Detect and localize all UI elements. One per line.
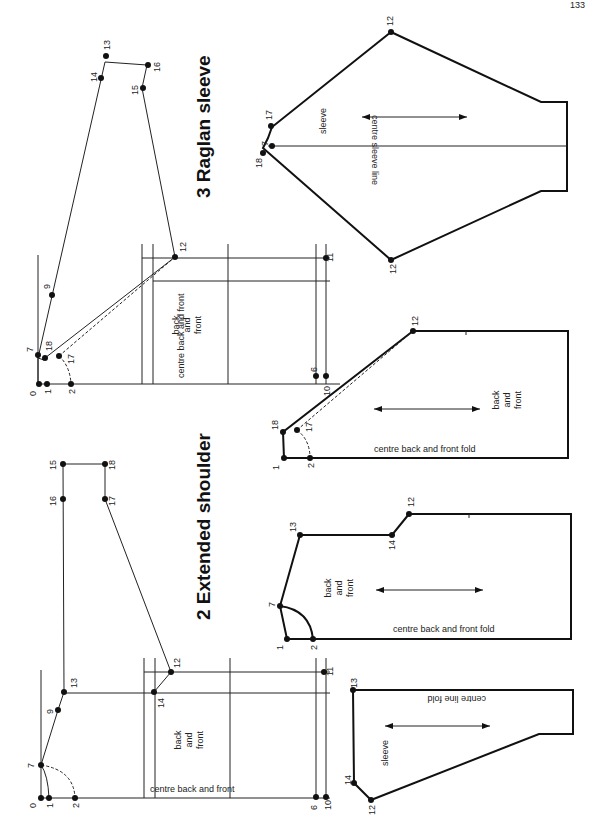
svg-text:18: 18 — [254, 158, 264, 168]
svg-text:2: 2 — [309, 645, 319, 650]
svg-text:front: front — [345, 578, 355, 597]
extended-sleeve-piece: centre line fold sleeve 13 14 12 — [343, 678, 573, 815]
svg-text:16: 16 — [152, 62, 162, 72]
svg-text:1: 1 — [43, 389, 53, 394]
svg-text:12: 12 — [367, 805, 377, 815]
svg-text:17: 17 — [304, 422, 314, 432]
svg-text:and: and — [182, 317, 192, 332]
svg-text:12: 12 — [410, 316, 420, 326]
svg-text:sleeve: sleeve — [380, 740, 390, 766]
svg-text:14: 14 — [89, 72, 99, 82]
svg-text:back: back — [171, 315, 181, 335]
svg-text:1: 1 — [271, 465, 281, 470]
svg-text:11: 11 — [325, 667, 335, 676]
svg-text:18: 18 — [107, 460, 117, 470]
svg-text:12: 12 — [178, 242, 188, 252]
raglan-title: 3 Raglan sleeve — [193, 55, 214, 198]
svg-text:1: 1 — [275, 645, 285, 650]
centre-label-extended: centre back and front — [150, 784, 235, 794]
svg-text:10: 10 — [323, 800, 333, 810]
svg-text:12: 12 — [406, 497, 416, 507]
svg-text:sleeve: sleeve — [318, 108, 328, 134]
svg-text:front: front — [193, 315, 203, 334]
svg-text:15: 15 — [48, 460, 58, 470]
raglan-draft: centre back and front back and front 0 1… — [25, 40, 340, 396]
svg-text:back: back — [323, 578, 333, 598]
svg-text:back: back — [173, 730, 183, 750]
svg-text:13: 13 — [288, 522, 298, 532]
svg-text:0: 0 — [28, 803, 38, 808]
svg-text:16: 16 — [48, 496, 58, 506]
extended-draft: centre back and front back and front 0 1… — [26, 460, 335, 810]
svg-text:7: 7 — [267, 602, 277, 607]
svg-text:9: 9 — [42, 284, 52, 289]
svg-text:7: 7 — [26, 763, 36, 768]
raglan-bodice-piece: centre back and front fold back and fron… — [270, 316, 568, 470]
extended-bodice-piece: centre back and front fold back and fron… — [267, 497, 571, 650]
svg-text:2: 2 — [71, 803, 81, 808]
svg-text:18: 18 — [270, 420, 280, 430]
raglan-sleeve-piece: sleeve centre sleeve line 7 17 18 12 12 — [254, 16, 567, 274]
pattern-page: 133 centre back and front — [0, 0, 601, 835]
svg-text:17: 17 — [107, 496, 117, 506]
svg-text:15: 15 — [130, 85, 140, 95]
svg-text:2: 2 — [67, 389, 77, 394]
svg-text:13: 13 — [69, 678, 79, 688]
svg-text:13: 13 — [102, 40, 112, 50]
svg-text:9: 9 — [45, 709, 55, 714]
svg-text:14: 14 — [156, 698, 166, 708]
svg-text:and: and — [334, 580, 344, 595]
svg-text:centre line fold: centre line fold — [427, 694, 486, 704]
svg-text:14: 14 — [387, 540, 397, 550]
svg-text:and: and — [184, 732, 194, 747]
svg-text:6: 6 — [309, 367, 319, 372]
svg-text:0: 0 — [28, 391, 38, 396]
svg-text:11: 11 — [325, 253, 335, 262]
svg-text:13: 13 — [349, 678, 359, 688]
svg-text:centre back and front fold: centre back and front fold — [393, 624, 495, 634]
svg-text:14: 14 — [343, 775, 353, 785]
page-number: 133 — [570, 0, 585, 10]
svg-text:6: 6 — [309, 805, 319, 810]
svg-text:12: 12 — [388, 264, 398, 274]
svg-text:7: 7 — [25, 347, 35, 352]
svg-text:front: front — [513, 390, 523, 409]
svg-text:17: 17 — [66, 354, 76, 364]
svg-text:12: 12 — [385, 16, 395, 26]
svg-text:7: 7 — [260, 141, 270, 146]
svg-text:centre sleeve line: centre sleeve line — [370, 115, 380, 185]
extended-title: 2 Extended shoulder — [193, 433, 214, 620]
svg-text:17: 17 — [264, 110, 274, 120]
svg-text:back: back — [491, 390, 501, 410]
svg-text:2: 2 — [306, 463, 316, 468]
svg-text:front: front — [195, 730, 205, 749]
svg-text:12: 12 — [172, 658, 182, 668]
svg-text:1: 1 — [45, 803, 55, 808]
svg-text:centre back and front fold: centre back and front fold — [374, 444, 476, 454]
svg-text:and: and — [502, 392, 512, 407]
svg-text:18: 18 — [44, 341, 54, 351]
